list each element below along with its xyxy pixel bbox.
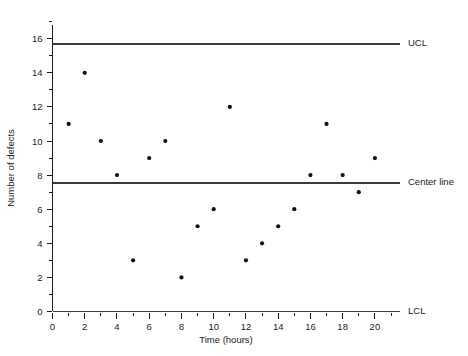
y-tick-label: 8 (37, 170, 42, 181)
x-tick-label: 10 (208, 321, 219, 332)
control-limit-lines (53, 44, 401, 312)
y-tick-label: 0 (37, 306, 42, 317)
data-point (292, 207, 296, 211)
x-axis-title: Time (hours) (199, 334, 253, 345)
x-tick-label: 4 (114, 321, 119, 332)
data-point (357, 190, 361, 194)
x-tick-label: 16 (305, 321, 316, 332)
data-point (228, 105, 232, 109)
x-axis-ticks (53, 313, 392, 319)
limit-label-lcl: LCL (408, 305, 425, 316)
data-point (99, 139, 103, 143)
y-tick-label: 10 (32, 136, 43, 147)
control-limit-labels: UCLCenter lineLCL (408, 37, 454, 316)
limit-label-ucl: UCL (408, 37, 427, 48)
x-axis-tick-labels: 02468101214161820 (50, 321, 380, 332)
data-point (195, 224, 199, 228)
data-point (67, 122, 71, 126)
x-tick-label: 20 (370, 321, 381, 332)
x-tick-label: 2 (82, 321, 87, 332)
data-point (115, 173, 119, 177)
data-point (260, 241, 264, 245)
y-tick-label: 6 (37, 204, 42, 215)
y-axis-tick-labels: 0246810121416 (32, 33, 43, 317)
y-tick-label: 16 (32, 33, 43, 44)
y-tick-label: 4 (37, 238, 42, 249)
data-point-series (67, 71, 377, 280)
data-point (212, 207, 216, 211)
x-tick-label: 12 (241, 321, 252, 332)
data-point (83, 71, 87, 75)
y-axis-title: Number of defects (5, 129, 16, 207)
data-point (276, 224, 280, 228)
x-tick-label: 6 (147, 321, 152, 332)
x-tick-label: 0 (50, 321, 55, 332)
data-point (324, 122, 328, 126)
y-axis-ticks (47, 22, 53, 312)
limit-label-center: Center line (408, 176, 454, 187)
y-tick-label: 14 (32, 67, 43, 78)
data-point (244, 258, 248, 262)
data-point (131, 258, 135, 262)
axes-group (53, 25, 401, 312)
y-tick-label: 12 (32, 101, 43, 112)
data-point (163, 139, 167, 143)
data-point (147, 156, 151, 160)
x-tick-label: 18 (337, 321, 348, 332)
data-point (341, 173, 345, 177)
control-chart: 02468101214161820 0246810121416 UCLCente… (0, 0, 468, 356)
data-point (373, 156, 377, 160)
data-point (179, 275, 183, 279)
x-tick-label: 14 (273, 321, 284, 332)
y-tick-label: 2 (37, 272, 42, 283)
control-chart-page: 02468101214161820 0246810121416 UCLCente… (0, 0, 468, 356)
x-tick-label: 8 (179, 321, 184, 332)
data-point (308, 173, 312, 177)
